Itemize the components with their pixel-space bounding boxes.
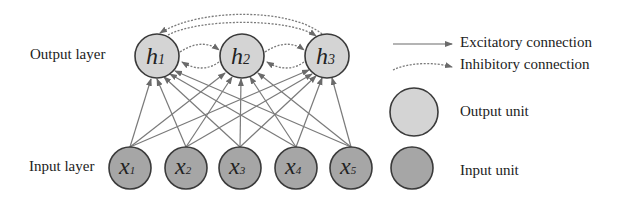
legend-inhibitory-arrow-icon	[393, 64, 452, 70]
legend-input-unit-icon	[391, 147, 433, 189]
input-unit-x5-label: x5	[340, 153, 356, 180]
legend-output-unit-label: Output unit	[460, 103, 529, 120]
legend-input-unit-label: Input unit	[460, 162, 519, 179]
output-unit-h2-label: h2	[231, 43, 250, 70]
legend-excitatory-label: Excitatory connection	[460, 34, 592, 51]
input-layer-label: Input layer	[29, 158, 94, 175]
output-unit-h3-label: h3	[316, 43, 335, 70]
output-unit-h1-label: h1	[146, 43, 165, 70]
legend-output-unit-icon	[390, 88, 438, 136]
input-unit-x3-label: x3	[229, 153, 245, 180]
legend-graphics	[390, 44, 452, 189]
output-layer-label: Output layer	[30, 46, 105, 63]
legend-inhibitory-label: Inhibitory connection	[460, 56, 590, 73]
input-unit-x2-label: x2	[175, 153, 191, 180]
input-unit-x4-label: x4	[285, 153, 301, 180]
network-diagram	[0, 0, 640, 208]
excitatory-connections	[130, 70, 351, 147]
input-unit-x1-label: x1	[119, 153, 135, 180]
